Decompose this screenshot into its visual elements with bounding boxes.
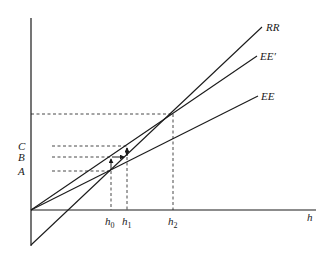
y-label-b: B (18, 151, 25, 163)
ee-label: EE (260, 90, 275, 102)
x-label-h0: h0 (105, 215, 115, 230)
diagram-canvas: RR EE′ EE C B A h0 h1 h2 h (0, 0, 332, 257)
ee-prime-line (31, 56, 257, 210)
x-label-h2: h2 (168, 215, 178, 230)
x-label-h1: h1 (122, 215, 132, 230)
rr-label: RR (265, 21, 280, 33)
x-axis-label: h (307, 211, 313, 223)
ee-prime-label: EE′ (259, 50, 276, 62)
rr-line (31, 27, 262, 245)
ee-line (31, 96, 258, 210)
y-label-a: A (17, 165, 25, 177)
